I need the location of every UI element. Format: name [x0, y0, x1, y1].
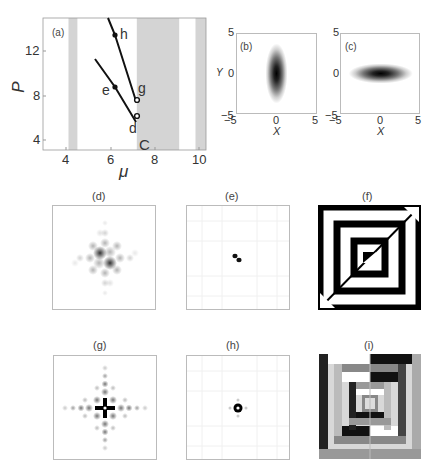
panel-a: (a) h e g d C 12 8 4 4 6 8 10 P μ	[0, 0, 215, 180]
panel-g-pattern	[54, 356, 157, 460]
point-label-h: h	[120, 26, 128, 42]
band-1	[69, 18, 78, 150]
a-ytick-12: 12	[25, 43, 39, 58]
point-label-d: d	[129, 120, 137, 136]
panel-d-pattern	[53, 206, 156, 310]
a-xtick-10: 10	[192, 152, 206, 167]
panel-e-plot	[186, 205, 290, 310]
a-ylabel: P	[9, 81, 29, 92]
a-xtick-6: 6	[107, 152, 114, 167]
a-ytick-4: 4	[33, 132, 40, 147]
point-label-e: e	[102, 82, 110, 98]
panel-i-pattern	[319, 354, 421, 459]
c-ytick-mid: 0	[333, 67, 339, 79]
a-xlabel: μ	[119, 162, 128, 182]
panel-f-label: (f)	[362, 190, 372, 202]
b-xtick-right: 5	[312, 114, 318, 126]
panel-f-plot	[318, 205, 421, 310]
c-xlabel: X	[377, 125, 384, 137]
panel-i-label: (i)	[364, 339, 374, 351]
panel-d-label: (d)	[92, 190, 105, 202]
a-xtick-4: 4	[62, 152, 69, 167]
point-g-marker	[135, 98, 140, 103]
panel-i-plot	[319, 354, 421, 459]
panel-f-pattern	[318, 205, 421, 310]
panel-h-pattern	[187, 356, 290, 460]
panel-g-label: (g)	[93, 339, 106, 351]
c-ytick-top: 5	[333, 26, 339, 38]
panel-h-plot	[186, 355, 290, 460]
panel-b-label: (b)	[240, 41, 252, 52]
panel-c-label: (c)	[345, 41, 357, 52]
panel-h-label: (h)	[226, 339, 239, 351]
b-xtick-left: −5	[224, 114, 237, 126]
point-d-marker	[135, 114, 140, 119]
panel-a-label: (a)	[52, 27, 64, 38]
b-ytick-top: 5	[228, 26, 234, 38]
b-ylabel: Y	[216, 67, 223, 78]
b-ytick-mid: 0	[228, 67, 234, 79]
point-h-marker	[112, 32, 117, 37]
panel-d-plot	[52, 205, 156, 310]
point-e-marker	[112, 84, 117, 89]
c-xtick-left: −5	[329, 114, 342, 126]
panel-e-label: (e)	[225, 190, 238, 202]
panel-g-plot	[53, 355, 157, 460]
point-label-g: g	[138, 80, 146, 96]
panel-e-pattern	[187, 206, 290, 310]
band-3	[196, 18, 207, 150]
a-xtick-8: 8	[151, 152, 158, 167]
a-ytick-8: 8	[33, 88, 40, 103]
point-label-c: C	[139, 136, 150, 153]
b-xlabel: X	[273, 125, 280, 137]
c-xtick-right: 5	[415, 114, 421, 126]
